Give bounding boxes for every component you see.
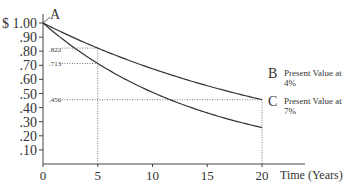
annotation-456: .456 [49,96,62,104]
y-tick-label: .40 [20,101,38,116]
x-tick-label: 0 [40,168,47,183]
y-tick-label: .30 [20,115,38,130]
x-axis-title: Time (Years) [280,168,343,182]
y-tick-label: .20 [20,129,38,144]
x-tick-label: 10 [146,168,159,183]
y-tick-label: .80 [20,44,38,59]
annotation-713: .713 [49,60,62,68]
y-tick-label: .10 [20,143,38,158]
y-axis-ticks: $ 1.00.90.80.70.60.50.40.30.20.10 [2,16,43,158]
dotted-guides [62,48,262,164]
y-tick-label: .50 [20,87,38,102]
series-7pct-label: Present Value at [284,96,342,106]
x-axis-ticks: 05101520 [40,164,269,183]
curves [43,23,262,128]
point-b-label: B [268,66,277,81]
curve-4pct [43,23,262,100]
annotation-822: .822 [49,46,62,54]
x-tick-label: 5 [95,168,102,183]
series-4pct-rate: 4% [284,78,297,88]
series-4pct-label: Present Value at [284,68,342,78]
present-value-chart: $ 1.00.90.80.70.60.50.40.30.20.10 051015… [0,0,357,190]
y-tick-label: $ 1.00 [2,16,37,31]
y-tick-label: .70 [20,58,38,73]
point-a-label: A [50,7,61,22]
point-c-label: C [268,94,277,109]
x-tick-label: 20 [256,168,269,183]
y-tick-label: .90 [20,30,38,45]
y-tick-label: .60 [20,72,38,87]
series-7pct-rate: 7% [284,106,297,116]
x-tick-label: 15 [201,168,214,183]
point-a-pointer [43,17,50,23]
